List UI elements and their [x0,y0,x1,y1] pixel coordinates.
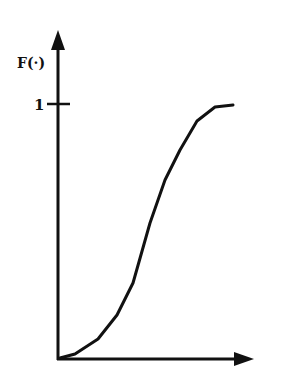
y-axis-arrow-icon [51,30,65,50]
y-tick-label-one: 1 [34,96,44,114]
x-axis-arrow-icon [234,352,254,366]
cdf-curve [60,105,233,358]
y-axis-label: F(·) [17,55,45,71]
cdf-chart: F(·) 1 [0,0,291,379]
